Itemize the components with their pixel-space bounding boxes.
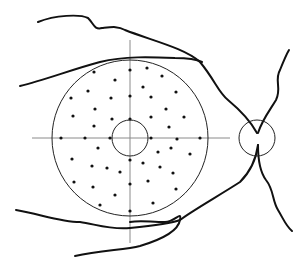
test-point: [145, 66, 148, 69]
test-point: [128, 68, 131, 71]
test-point: [164, 107, 167, 110]
test-point: [98, 203, 101, 206]
test-point: [105, 166, 108, 169]
test-point: [128, 209, 131, 212]
test-point: [118, 170, 121, 173]
test-point: [141, 161, 144, 164]
test-point: [91, 185, 94, 188]
test-point: [175, 137, 178, 140]
test-point: [69, 96, 72, 99]
test-point: [72, 180, 75, 183]
test-point: [171, 171, 174, 174]
test-point: [160, 74, 163, 77]
test-point: [90, 164, 93, 167]
test-point: [128, 182, 131, 185]
test-point: [146, 179, 149, 182]
test-point: [151, 201, 154, 204]
test-point: [59, 136, 62, 139]
test-point: [174, 90, 177, 93]
test-point: [156, 150, 159, 153]
test-point: [128, 94, 131, 97]
test-point: [128, 158, 131, 161]
test-point: [113, 193, 116, 196]
test-point: [113, 78, 116, 81]
test-point: [86, 89, 89, 92]
test-point: [149, 115, 152, 118]
test-point: [174, 187, 177, 190]
test-point: [92, 124, 95, 127]
test-point: [188, 152, 191, 155]
test-point: [110, 117, 113, 120]
test-point: [167, 125, 170, 128]
test-point: [109, 96, 112, 99]
test-point: [83, 136, 86, 139]
test-point: [108, 136, 111, 139]
test-point: [92, 70, 95, 73]
test-point: [93, 107, 96, 110]
retina-test-grid-diagram: [0, 0, 305, 268]
test-point: [198, 136, 201, 139]
test-point: [182, 115, 185, 118]
test-point: [96, 146, 99, 149]
test-point: [70, 157, 73, 160]
test-point: [149, 136, 152, 139]
test-point: [71, 114, 74, 117]
test-point: [158, 165, 161, 168]
test-point: [149, 95, 152, 98]
test-point: [141, 85, 144, 88]
test-point: [169, 146, 172, 149]
